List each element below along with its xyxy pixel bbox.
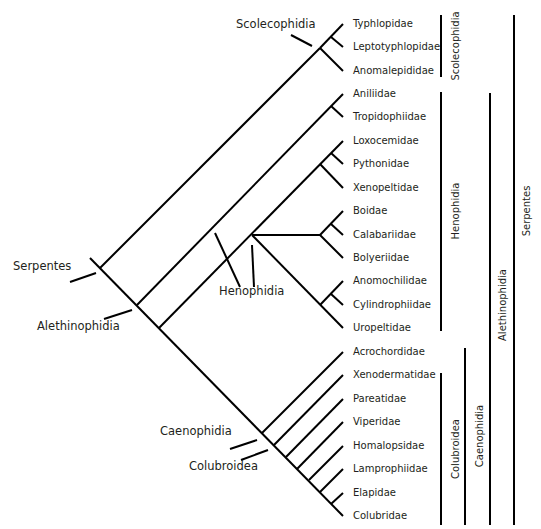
- branch-anomalepididae: [320, 48, 343, 71]
- clade-label-colubroidea: Colubroidea: [189, 459, 258, 473]
- taxon-label: Bolyeriidae: [353, 252, 409, 264]
- branch-leptotyphlopidae: [331, 37, 343, 47]
- taxon-label: Anomochilidae: [353, 275, 427, 287]
- branch-calabariidae: [331, 224, 343, 235]
- branch-viperidae: [297, 422, 343, 469]
- taxon-label: Lamprophiidae: [353, 463, 428, 475]
- branch-cylindrophiidae: [331, 294, 343, 305]
- side-bar-label-scolecophidia: Scolecophidia: [450, 11, 462, 80]
- taxon-label: Xenodermatidae: [353, 369, 436, 381]
- taxon-label: Calabariidae: [353, 229, 416, 241]
- taxon-label: Xenopeltidae: [353, 182, 419, 194]
- branch-acrochordidae: [262, 352, 343, 433]
- taxon-label: Boidae: [353, 205, 387, 217]
- taxon-label: Anomalepididae: [353, 65, 434, 77]
- pointer-henophidia-a: [215, 233, 240, 287]
- taxon-label: Aniliidae: [353, 88, 396, 100]
- side-bar-label-serpentes: Serpentes: [521, 186, 533, 237]
- taxon-label: Pareatidae: [353, 393, 406, 405]
- branch-lamprophiidae: [320, 469, 343, 492]
- branch-pareatidae: [286, 399, 343, 457]
- root-spine: [90, 258, 343, 516]
- taxon-label: Viperidae: [353, 416, 400, 428]
- clade-label-henophidia: Henophidia: [219, 284, 284, 298]
- branch-pythonidae: [331, 153, 343, 164]
- side-bar-label-henophidia: Henophidia: [450, 183, 462, 240]
- clade-label-serpentes: Serpentes: [13, 259, 71, 273]
- taxon-label: Acrochordidae: [353, 346, 425, 358]
- taxon-label: Typhlopidae: [353, 18, 413, 30]
- taxon-label: Homalopsidae: [353, 440, 424, 452]
- clade-label-caenophidia: Caenophidia: [160, 424, 232, 438]
- taxon-label: Loxocemidae: [353, 135, 419, 147]
- clade-label-alethinophidia: Alethinophidia: [37, 319, 120, 333]
- branch-xenopeltidae: [320, 164, 343, 188]
- side-bar-label-alethinophidia: Alethinophidia: [497, 269, 509, 341]
- pointer-serpentes: [70, 273, 96, 282]
- side-bar-label-colubroidea: Colubroidea: [450, 419, 462, 479]
- branch-bolyeriidae: [320, 235, 343, 258]
- clade-label-scolecophidia: Scolecophidia: [236, 17, 316, 31]
- taxon-label: Colubridae: [353, 510, 407, 522]
- taxon-label: Pythonidae: [353, 158, 409, 170]
- pointer-alethinophidia: [104, 310, 132, 319]
- side-bar-label-caenophidia: Caenophidia: [474, 405, 486, 467]
- taxon-label: Leptotyphlopidae: [353, 41, 440, 53]
- taxon-label: Tropidophiidae: [353, 111, 426, 123]
- taxon-label: Cylindrophiidae: [353, 299, 431, 311]
- pointer-henophidia-b: [252, 245, 254, 287]
- pointer-scolecophidia: [291, 35, 312, 46]
- branch-tropidophiidae: [331, 106, 343, 117]
- branch-elapidae: [331, 493, 343, 504]
- taxon-label: Elapidae: [353, 487, 396, 499]
- pointer-caenophidia: [230, 440, 257, 449]
- taxon-label: Uropeltidae: [353, 322, 411, 334]
- branch-uropeltoid-stem: [252, 235, 343, 328]
